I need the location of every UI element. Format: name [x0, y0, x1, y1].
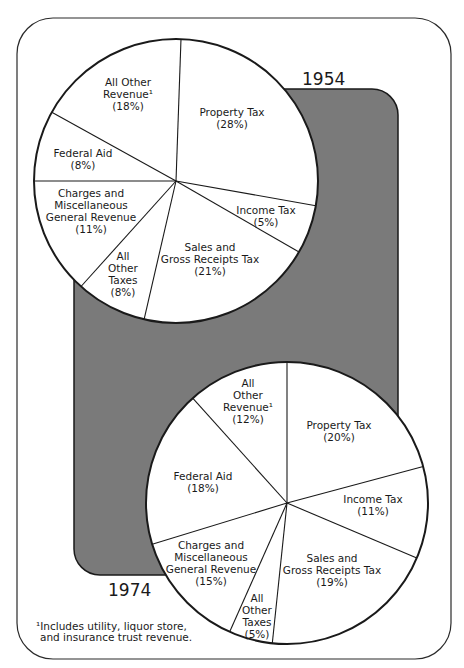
year-label-1974: 1974 [108, 580, 151, 600]
pie-1974: Property Tax(20%)Income Tax(11%)Sales an… [146, 362, 428, 644]
pie-1954: Property Tax(28%)Income Tax(5%)Sales and… [34, 39, 318, 323]
chart-figure: Property Tax(28%)Income Tax(5%)Sales and… [0, 0, 464, 668]
year-label-1954: 1954 [302, 69, 345, 89]
footnote-line-2: and insurance trust revenue. [40, 631, 192, 643]
